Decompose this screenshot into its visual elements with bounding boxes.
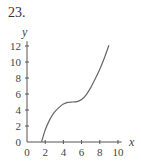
x-tick-label: 10 [113,146,125,158]
y-tick-label: 0 [16,136,22,148]
y-tick-label: 4 [16,104,22,116]
y-tick-label: 10 [10,56,22,68]
x-axis-label: x [128,135,135,149]
x-tick-label: 0 [24,146,30,158]
y-axis-label: y [21,25,28,39]
y-tick-label: 6 [16,88,22,100]
x-tick-label: 8 [97,146,103,158]
y-tick-label: 2 [16,120,22,132]
x-tick-label: 6 [79,146,85,158]
x-tick-label: 4 [61,146,67,158]
function-curve [42,45,109,142]
y-tick-label: 8 [16,72,22,84]
chart: 0246810024681012xy [0,0,141,167]
x-tick-label: 2 [42,146,48,158]
y-tick-label: 12 [10,40,21,52]
